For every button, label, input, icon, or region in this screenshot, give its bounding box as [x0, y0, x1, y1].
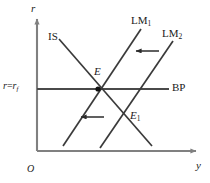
lm2-curve [100, 41, 173, 148]
lm1-curve-label-subscript: 1 [148, 19, 152, 28]
bp-curve-label: BP [172, 82, 185, 93]
tick-r-subscript: f [16, 85, 18, 92]
origin-label: O [27, 164, 34, 174]
x-axis-label: y [196, 160, 201, 171]
point-E-label-text: E [94, 65, 101, 77]
lm1-curve-label-text: LM [131, 14, 148, 26]
lm1-curve [63, 29, 141, 146]
is-curve-label: IS [48, 31, 58, 42]
point-E1-label: E1 [130, 110, 140, 122]
y-axis-label: r [31, 3, 35, 14]
point-E-label: E [94, 66, 101, 77]
is-curve-label-text: IS [48, 30, 58, 42]
lm2-curve-label-subscript: 2 [179, 32, 183, 41]
point-E1-label-text: E [130, 109, 137, 121]
lm2-curve-label: LM2 [162, 28, 182, 40]
is-lm-bp-figure: r y O r=rf IS LM1 LM2 BP E E1 [0, 0, 210, 183]
interest-rate-tick-label: r=rf [3, 81, 18, 92]
lm2-curve-label-text: LM [162, 27, 179, 39]
point-E1-label-subscript: 1 [137, 114, 141, 123]
bp-curve-label-text: BP [172, 81, 185, 93]
lm1-curve-label: LM1 [131, 15, 151, 27]
point-E-marker [95, 86, 100, 91]
